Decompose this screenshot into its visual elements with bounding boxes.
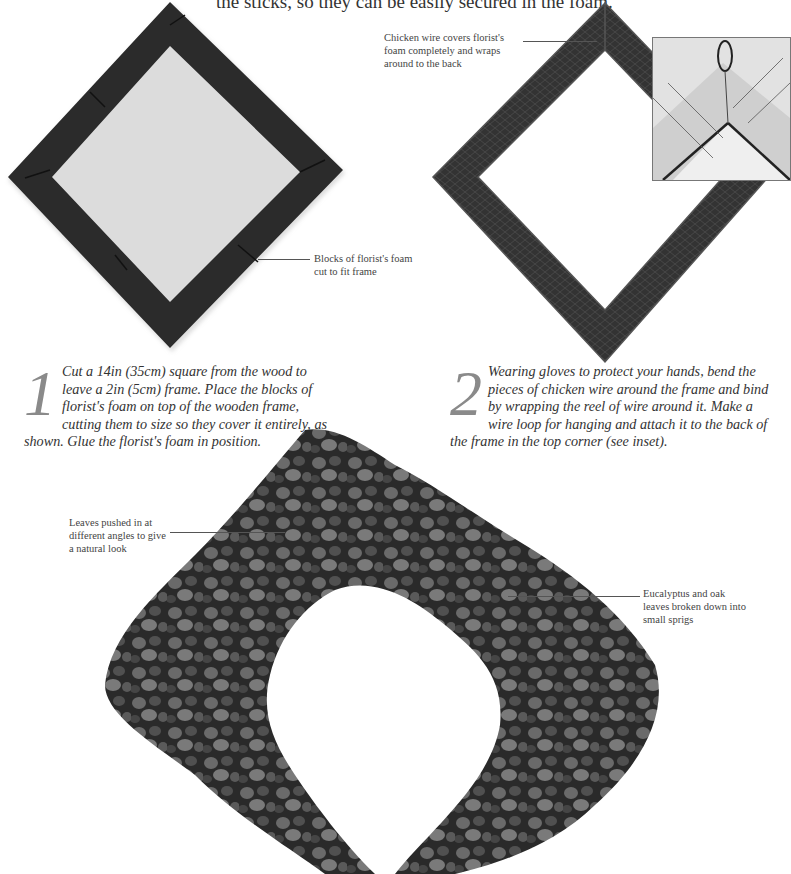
chicken-wire-callout: Chicken wire covers florist's foam compl… xyxy=(384,31,512,70)
leaves-angle-callout: Leaves pushed in at different angles to … xyxy=(69,516,169,555)
finished-wreath-photo xyxy=(95,425,675,874)
wire-loop-inset xyxy=(652,37,791,181)
foam-frame-photo xyxy=(0,0,360,360)
chicken-wire-callout-leader xyxy=(523,41,597,42)
foam-callout: Blocks of florist's foam cut to fit fram… xyxy=(314,252,424,278)
foam-callout-leader xyxy=(258,259,310,260)
step-1-number: 1 xyxy=(24,369,56,419)
leaves-angle-callout-leader xyxy=(170,532,285,533)
eucalyptus-oak-callout: Eucalyptus and oak leaves broken down in… xyxy=(643,587,753,626)
eucalyptus-oak-callout-leader xyxy=(508,596,640,597)
step-2-number: 2 xyxy=(450,369,482,419)
